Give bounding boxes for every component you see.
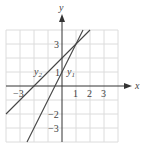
tick-x-1: 1: [73, 88, 78, 99]
tick-y-1: 1: [55, 67, 60, 78]
tick-y-neg2: −2: [48, 109, 59, 120]
x-axis-label: x: [134, 80, 140, 91]
graph-canvas: x y −3 1 2 3 3 1 −2 −3 y2 y1: [0, 0, 145, 147]
x-axis-arrow-icon: [124, 83, 132, 89]
tick-x-3: 3: [101, 88, 106, 99]
label-y1: y1: [66, 66, 75, 79]
tick-x-neg3: −3: [13, 88, 24, 99]
y-axis-arrow-icon: [59, 14, 65, 22]
y-axis-label: y: [58, 2, 64, 13]
tick-y-neg3: −3: [48, 123, 59, 134]
tick-y-3: 3: [54, 39, 59, 50]
axes: [6, 20, 126, 142]
tick-x-2: 2: [87, 88, 92, 99]
